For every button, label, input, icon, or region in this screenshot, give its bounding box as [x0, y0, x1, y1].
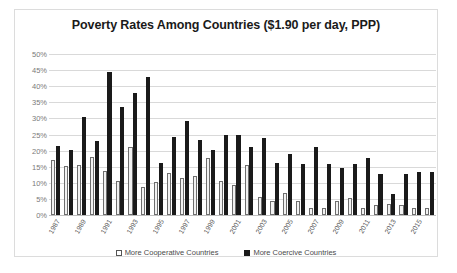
bar-cooperative — [361, 208, 365, 215]
bar-group — [320, 54, 333, 215]
x-axis-tick: 1987 — [49, 216, 62, 246]
bar-group — [49, 54, 62, 215]
x-axis-tick: 1999 — [204, 216, 217, 246]
legend-item[interactable]: More Coercive Countries — [244, 248, 336, 257]
bar-group — [204, 54, 217, 215]
bar-cooperative — [309, 208, 313, 215]
y-axis: 50%45%40%35%30%25%20%15%10%5%0% — [15, 54, 47, 215]
x-axis-tick: 1989 — [75, 216, 88, 246]
x-axis-tick: 2009 — [333, 216, 346, 246]
bar-cooperative — [141, 187, 145, 215]
bar-group — [294, 54, 307, 215]
y-axis-tick-label: 5% — [19, 194, 47, 203]
bar-group — [165, 54, 178, 215]
bar-coercive — [159, 163, 163, 215]
x-axis-tick-label: 2009 — [332, 218, 346, 235]
bar-coercive — [301, 164, 305, 215]
bar-coercive — [275, 163, 279, 215]
bar-cooperative — [128, 147, 132, 215]
x-axis-tick: 2005 — [281, 216, 294, 246]
bar-cooperative — [412, 208, 416, 215]
filled-square-swatch — [244, 250, 250, 256]
bar-coercive — [224, 135, 228, 215]
bar-group — [217, 54, 230, 215]
bar-coercive — [430, 172, 434, 215]
bar-coercive — [327, 164, 331, 215]
bar-coercive — [185, 121, 189, 215]
bar-coercive — [236, 135, 240, 215]
y-axis-tick-label: 45% — [19, 66, 47, 75]
bar-coercive — [95, 141, 99, 215]
y-axis-tick-label: 50% — [19, 50, 47, 59]
bar-group — [372, 54, 385, 215]
x-axis-tick: 2011 — [359, 216, 372, 246]
bar-group — [346, 54, 359, 215]
bar-coercive — [353, 164, 357, 215]
bar-coercive — [211, 150, 215, 215]
bar-coercive — [107, 72, 111, 215]
bar-coercive — [146, 77, 150, 215]
y-axis-tick-label: 35% — [19, 98, 47, 107]
bar-coercive — [56, 146, 60, 215]
y-axis-tick-label: 20% — [19, 146, 47, 155]
bar-group — [385, 54, 398, 215]
bar-cooperative — [335, 201, 339, 215]
x-axis-tick-label: 2003 — [254, 218, 268, 235]
bar-coercive — [82, 117, 86, 215]
bar-cooperative — [283, 193, 287, 215]
bar-coercive — [314, 147, 318, 215]
bar-group — [397, 54, 410, 215]
bar-group — [139, 54, 152, 215]
x-axis-tick-label: 2015 — [409, 218, 423, 235]
bar-cooperative — [245, 165, 249, 215]
x-axis-tick-label: 1995 — [151, 218, 165, 235]
bar-group — [191, 54, 204, 215]
bar-cooperative — [258, 197, 262, 215]
y-axis-tick-label: 15% — [19, 162, 47, 171]
x-axis-labels: 1987198919911993199519971999200120032005… — [49, 216, 436, 246]
chart-legend: More Cooperative CountriesMore Coercive … — [15, 248, 437, 257]
bar-coercive — [340, 168, 344, 215]
bar-coercive — [404, 174, 408, 215]
x-axis-tick-label: 1997 — [177, 218, 191, 235]
bar-group — [256, 54, 269, 215]
bar-group — [281, 54, 294, 215]
bar-group — [101, 54, 114, 215]
plot-area — [49, 54, 436, 215]
bar-group — [307, 54, 320, 215]
bar-cooperative — [322, 208, 326, 215]
x-axis-tick: 1993 — [126, 216, 139, 246]
bar-cooperative — [296, 201, 300, 215]
bar-coercive — [288, 154, 292, 216]
bar-group — [88, 54, 101, 215]
bar-cooperative — [154, 182, 158, 215]
bar-group — [75, 54, 88, 215]
x-axis-tick — [423, 216, 436, 246]
legend-item[interactable]: More Cooperative Countries — [116, 248, 219, 257]
bar-coercive — [366, 158, 370, 215]
bar-groups — [49, 54, 436, 215]
bar-cooperative — [77, 165, 81, 215]
x-axis-tick: 2003 — [256, 216, 269, 246]
bar-coercive — [172, 137, 176, 215]
y-axis-tick-label: 0% — [19, 211, 47, 220]
bar-cooperative — [180, 178, 184, 215]
x-axis-tick: 1995 — [152, 216, 165, 246]
y-axis-tick-label: 25% — [19, 130, 47, 139]
bar-cooperative — [425, 208, 429, 215]
bar-cooperative — [270, 201, 274, 215]
x-axis-tick-label: 2013 — [383, 218, 397, 235]
bar-coercive — [198, 140, 202, 215]
bar-group — [230, 54, 243, 215]
bar-coercive — [391, 194, 395, 215]
bar-cooperative — [232, 185, 236, 215]
x-axis-tick: 2001 — [230, 216, 243, 246]
bar-group — [126, 54, 139, 215]
bar-group — [152, 54, 165, 215]
chart-title: Poverty Rates Among Countries ($1.90 per… — [15, 18, 437, 32]
x-axis-tick-label: 2011 — [358, 218, 372, 235]
x-axis-tick: 2013 — [385, 216, 398, 246]
bar-group — [423, 54, 436, 215]
bar-coercive — [417, 172, 421, 215]
bar-coercive — [69, 150, 73, 215]
